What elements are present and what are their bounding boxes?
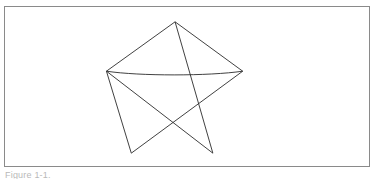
figure-frame xyxy=(4,6,370,167)
figure-caption: Figure 1-1. xyxy=(5,170,185,179)
screenshot-root: Figure 1-1. xyxy=(0,0,376,179)
five-pointed-star-path xyxy=(106,22,242,153)
star-drawing-canvas xyxy=(5,7,369,166)
